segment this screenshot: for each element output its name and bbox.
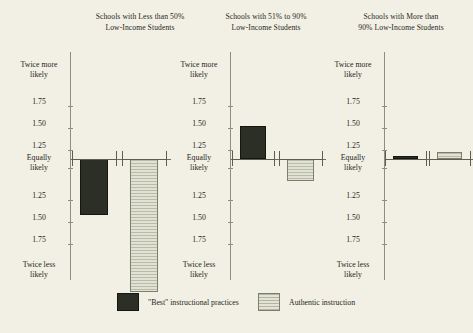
axis-tick-label: 1.50 [168, 213, 230, 223]
bar-best-practices [80, 159, 108, 215]
axis-tick-label: 1.75 [168, 235, 230, 245]
axis-tick-label-line2: likely [8, 70, 70, 80]
axis-tick-mark [382, 168, 387, 169]
axis-tick-label-line1: 1.25 [322, 191, 384, 201]
axis-tick-label: 1.50 [322, 213, 384, 223]
axis-tick-label: 1.75 [8, 235, 70, 245]
axis-labels-panel-0: Twice morelikely1.751.501.25Equallylikel… [8, 46, 70, 286]
error-bar-whisker [470, 151, 471, 166]
error-bar-whisker [116, 151, 117, 166]
authentic-swatch-icon [258, 293, 280, 311]
axis-tick-mark [68, 244, 73, 245]
axis-tick-label: 1.25 [8, 141, 70, 151]
axis-tick-label-line1: Twice more [168, 60, 230, 70]
axis-tick-label-line1: 1.75 [8, 97, 70, 107]
plot-area-panel-0 [71, 46, 171, 286]
legend-label: "Best" instructional practices [148, 298, 239, 307]
axis-tick-label-line2: likely [322, 163, 384, 173]
legend-item-best-practices: "Best" instructional practices [117, 293, 239, 311]
axis-tick-label: Twice morelikely [168, 60, 230, 79]
panel-title-51-to-90: Schools with 51% to 90% Low-Income Stude… [190, 12, 342, 33]
axis-tick-label-line1: 1.75 [168, 97, 230, 107]
axis-tick-label: Twice lesslikely [8, 260, 70, 279]
panel-titles: Schools with Less than 50% Low-Income St… [0, 0, 473, 46]
chart-panel-less-than-50: Twice morelikely1.751.501.25Equallylikel… [8, 46, 173, 286]
error-bar-whisker [166, 151, 167, 166]
axis-tick-label: Twice morelikely [8, 60, 70, 79]
error-bar-span [122, 159, 166, 160]
axis-tick-label: 1.75 [8, 97, 70, 107]
axis-tick-label: 1.50 [168, 119, 230, 129]
axis-tick-label-line1: 1.50 [8, 119, 70, 129]
axis-tick-label-line1: 1.50 [8, 213, 70, 223]
error-bar-span [279, 159, 322, 160]
panel-title-line1: Schools with 51% to 90% [225, 12, 306, 21]
chart-panel-more-than-90: Twice morelikely1.751.501.25Equallylikel… [322, 46, 473, 286]
panel-title-line1: Schools with Less than 50% [96, 12, 185, 21]
axis-tick-label-line1: Equally [8, 153, 70, 163]
axis-labels-panel-2: Twice morelikely1.751.501.25Equallylikel… [322, 46, 384, 286]
bar-authentic-instruction [437, 152, 462, 159]
axis-tick-label-line1: 1.75 [322, 97, 384, 107]
axis-tick-label: 1.25 [322, 191, 384, 201]
axis-tick-mark [228, 168, 233, 169]
axis-tick-mark [382, 150, 387, 151]
axis-tick-label-line1: Equally [322, 153, 384, 163]
axis-tick-mark [382, 128, 387, 129]
axis-tick-label: 1.25 [168, 191, 230, 201]
bar-authentic-instruction [287, 159, 314, 181]
axis-tick-label: Twice morelikely [322, 60, 384, 79]
axis-tick-label-line1: 1.25 [168, 191, 230, 201]
chart-panel-51-to-90: Twice morelikely1.751.501.25Equallylikel… [168, 46, 328, 286]
axis-tick-label: Equallylikely [8, 153, 70, 172]
axis-tick-label-line1: Twice less [8, 260, 70, 270]
axis-tick-label: 1.75 [322, 235, 384, 245]
axis-tick-label-line2: likely [8, 270, 70, 280]
error-bar-span [429, 159, 470, 160]
chart-legend: "Best" instructional practices Authentic… [0, 288, 473, 333]
error-bar-whisker [274, 151, 275, 166]
chart-panels: Twice morelikely1.751.501.25Equallylikel… [0, 46, 473, 286]
legend-item-authentic-instruction: Authentic instruction [258, 293, 355, 311]
axis-tick-mark [68, 106, 73, 107]
axis-tick-mark [382, 106, 387, 107]
axis-tick-label: 1.25 [322, 141, 384, 151]
axis-tick-label-line2: likely [168, 270, 230, 280]
axis-tick-label: 1.75 [322, 97, 384, 107]
axis-tick-label: 1.75 [168, 97, 230, 107]
axis-tick-label-line2: likely [8, 163, 70, 173]
axis-tick-label: 1.25 [8, 191, 70, 201]
axis-tick-label-line1: 1.25 [168, 141, 230, 151]
axis-tick-mark [68, 200, 73, 201]
axis-tick-mark [228, 150, 233, 151]
error-bar-span [232, 159, 275, 160]
axis-tick-label-line1: Equally [168, 153, 230, 163]
axis-tick-mark [382, 222, 387, 223]
axis-tick-mark [228, 222, 233, 223]
axis-tick-label-line1: 1.50 [168, 119, 230, 129]
axis-tick-label: 1.50 [8, 119, 70, 129]
panel-title-more-than-90: Schools with More than 90% Low-Income St… [330, 12, 472, 33]
axis-tick-label-line1: 1.50 [322, 213, 384, 223]
axis-tick-label-line2: likely [168, 163, 230, 173]
axis-tick-mark [382, 244, 387, 245]
axis-tick-label-line2: likely [322, 70, 384, 80]
plot-area-panel-1 [231, 46, 326, 286]
axis-tick-mark [228, 106, 233, 107]
axis-tick-label-line1: Twice less [168, 260, 230, 270]
axis-tick-mark [228, 128, 233, 129]
axis-tick-label-line1: Twice more [8, 60, 70, 70]
panel-title-line1: Schools with More than [364, 12, 439, 21]
axis-tick-label: 1.50 [322, 119, 384, 129]
axis-tick-label: 1.50 [8, 213, 70, 223]
axis-tick-label-line1: 1.25 [8, 191, 70, 201]
bar-authentic-instruction [130, 159, 158, 292]
axis-tick-mark [228, 200, 233, 201]
axis-tick-label: Twice lesslikely [168, 260, 230, 279]
legend-label: Authentic instruction [289, 298, 355, 307]
axis-tick-label: 1.25 [168, 141, 230, 151]
best-swatch-icon [117, 293, 139, 311]
plot-area-panel-2 [385, 46, 473, 286]
error-bar-span [385, 159, 426, 160]
axis-tick-label-line1: 1.75 [322, 235, 384, 245]
